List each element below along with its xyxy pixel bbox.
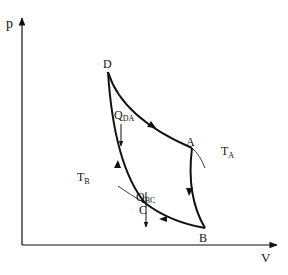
arrow-b-c-icon <box>159 216 167 222</box>
point-b-label: B <box>199 231 207 245</box>
qda-sub: DA <box>123 114 135 123</box>
point-a-label: A <box>186 135 195 149</box>
heat-labels: QDA QBC <box>114 108 155 205</box>
v-axis-label: V <box>261 250 271 265</box>
arrow-c-d-icon <box>114 160 121 168</box>
ta-sub: A <box>228 151 234 160</box>
cycle-paths <box>108 72 205 228</box>
axes: p V <box>6 16 277 265</box>
point-d-label: D <box>103 57 112 71</box>
qda-main: Q <box>114 108 123 122</box>
cycle-direction-arrows <box>114 121 193 222</box>
pv-diagram: p V D A B C QDA <box>0 0 288 275</box>
qbc-sub: BC <box>145 196 156 205</box>
tb-label: TB <box>77 170 90 186</box>
path-c-d <box>108 72 145 203</box>
isotherm-ta-extension <box>192 148 205 168</box>
tb-sub: B <box>84 177 89 186</box>
isotherm-labels: TA TB <box>77 144 234 186</box>
p-axis-label: p <box>6 16 13 31</box>
point-c-label: C <box>139 203 147 217</box>
qbc-main: Q <box>136 190 145 204</box>
ta-label: TA <box>221 144 234 160</box>
